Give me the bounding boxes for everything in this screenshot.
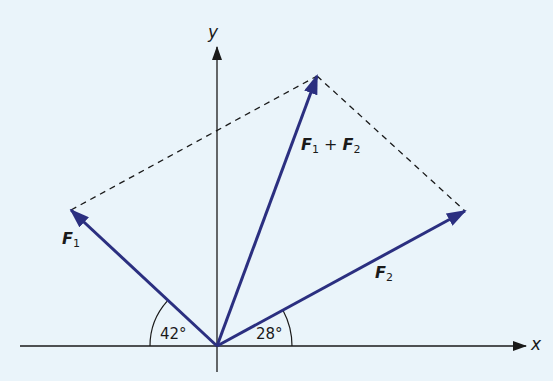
vector-f2 [217,211,465,346]
vector-f1 [71,210,217,346]
parallelogram-side-left [71,76,317,210]
f1-label: F1 [62,229,80,250]
angle-arc-28 [283,311,292,346]
vector-resultant [217,76,317,346]
resultant-label: F1 + F2 [301,135,360,156]
x-axis-label: x [531,334,541,354]
angle-label-28: 28° [256,325,283,343]
angle-label-42: 42° [160,325,187,343]
vector-diagram [0,0,553,381]
y-axis-label: y [208,22,218,42]
f2-label: F2 [375,263,393,284]
